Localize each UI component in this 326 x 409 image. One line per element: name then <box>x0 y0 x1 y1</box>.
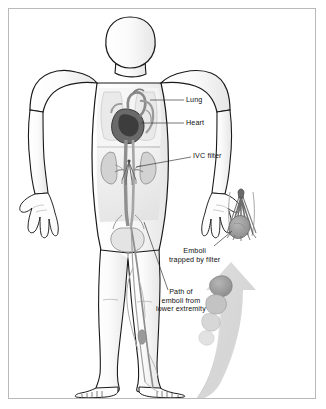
right-shoulder <box>30 71 97 112</box>
left-shoulder <box>161 71 230 112</box>
trapped-embolus <box>229 216 250 239</box>
right-arm <box>29 110 49 194</box>
right-leg <box>95 243 128 392</box>
left-foot <box>139 387 185 398</box>
anatomy-artwork <box>0 0 326 409</box>
right-hand <box>20 193 59 238</box>
embolus-path-arrow <box>196 262 256 399</box>
left-arm <box>212 110 232 194</box>
head <box>106 17 155 68</box>
right-foot <box>75 387 118 398</box>
medical-illustration-figure: Lung Heart IVC filter Emboli trapped by … <box>0 0 326 409</box>
